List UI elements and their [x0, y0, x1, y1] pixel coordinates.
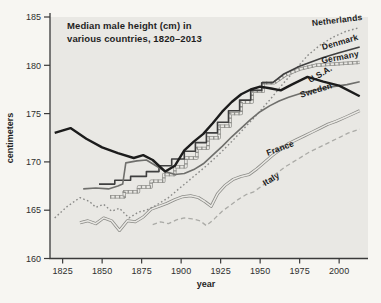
y-tick-label: 160 [26, 254, 41, 264]
x-tick-label: 1875 [132, 266, 152, 276]
chart: 1851801751701651601825185018751900192519… [0, 0, 381, 303]
chart-title-line1: Median male height (cm) in [67, 20, 202, 33]
y-tick-label: 175 [26, 109, 41, 119]
x-tick-label: 1900 [171, 266, 191, 276]
x-tick-label: 1825 [53, 266, 73, 276]
x-tick-label: 1950 [250, 266, 270, 276]
y-tick-label: 180 [26, 61, 41, 71]
x-tick-label: 1975 [290, 266, 310, 276]
y-axis-label: centimeters [5, 113, 15, 164]
chart-title-line2: various countries, 1820–2013 [67, 33, 202, 46]
x-tick-label: 2000 [329, 266, 349, 276]
y-tick-label: 185 [26, 12, 41, 22]
y-tick-label: 165 [26, 205, 41, 215]
x-tick-label: 1850 [92, 266, 112, 276]
x-axis-label: year [197, 279, 216, 289]
chart-title: Median male height (cm) in various count… [67, 20, 202, 45]
y-tick-label: 170 [26, 157, 41, 167]
x-tick-label: 1925 [211, 266, 231, 276]
